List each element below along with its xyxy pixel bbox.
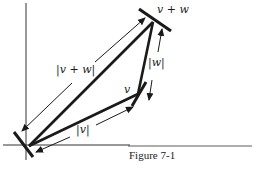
label-v-plus-w-point: v + w — [157, 4, 189, 15]
norm-w-dimension-lower — [149, 80, 152, 100]
label-norm-v-plus-w: |v + w| — [56, 64, 95, 75]
vector-v-plus-w — [29, 22, 153, 146]
figure-caption: Figure 7-1 — [129, 150, 175, 161]
norm-v-plus-w-dimension-lower — [22, 83, 72, 131]
norm-w-dimension-upper — [158, 29, 162, 52]
norm-v-dimension-upper — [96, 107, 133, 125]
label-norm-w: |w| — [148, 57, 165, 68]
vector-v — [29, 94, 138, 146]
label-norm-v: |v| — [76, 124, 90, 135]
label-v-point: v — [124, 84, 130, 95]
